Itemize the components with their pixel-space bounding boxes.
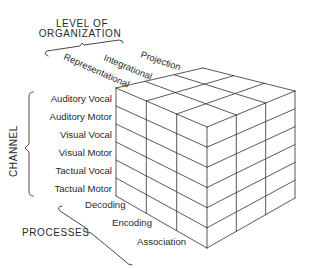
- channel-labels: Auditory Vocal Auditory Motor Visual Voc…: [50, 93, 113, 194]
- channel-title: CHANNEL: [8, 125, 19, 177]
- processes-title: PROCESSES: [22, 227, 90, 238]
- channel-label-auditory-vocal: Auditory Vocal: [51, 93, 112, 104]
- itpa-model-cube-diagram: LEVEL OF ORGANIZATION Representational I…: [0, 0, 311, 268]
- process-labels: Decoding Encoding Association: [85, 199, 186, 247]
- channel-brace: [25, 92, 33, 196]
- cube-right-face: [207, 91, 295, 248]
- channel-label-auditory-motor: Auditory Motor: [50, 111, 113, 122]
- process-label-encoding: Encoding: [112, 217, 152, 228]
- level-title-line-2: ORGANIZATION: [39, 28, 122, 39]
- level-of-organization-title: LEVEL OF ORGANIZATION: [39, 18, 122, 39]
- process-label-association: Association: [137, 236, 186, 247]
- diagram-svg: LEVEL OF ORGANIZATION Representational I…: [0, 0, 311, 268]
- channel-label-visual-motor: Visual Motor: [59, 147, 113, 158]
- channel-label-tactual-motor: Tactual Motor: [54, 183, 112, 194]
- channel-label-tactual-vocal: Tactual Vocal: [55, 165, 112, 176]
- channel-label-visual-vocal: Visual Vocal: [60, 129, 112, 140]
- level-label-representational: Representational: [62, 51, 131, 90]
- process-label-decoding: Decoding: [85, 199, 126, 210]
